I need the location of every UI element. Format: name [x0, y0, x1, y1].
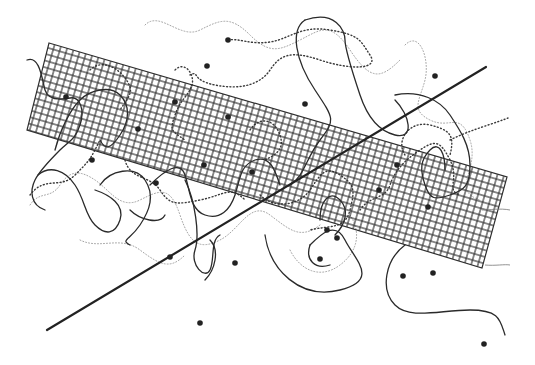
dot — [317, 256, 323, 262]
fontana-mix-artwork — [0, 0, 535, 365]
dot — [302, 101, 308, 107]
dot — [204, 63, 210, 69]
dot — [201, 162, 207, 168]
dot — [432, 73, 438, 79]
dot — [89, 157, 95, 163]
dot — [167, 254, 173, 260]
dot — [225, 37, 231, 43]
dot — [481, 341, 487, 347]
dot — [394, 162, 400, 168]
dot — [63, 94, 69, 100]
dot — [232, 260, 238, 266]
dot — [153, 180, 159, 186]
dot — [430, 270, 436, 276]
dot — [376, 187, 382, 193]
dot — [197, 320, 203, 326]
dot — [425, 204, 431, 210]
dot — [334, 235, 340, 241]
dot — [135, 126, 141, 132]
dot — [249, 169, 255, 175]
dot — [400, 273, 406, 279]
dot — [172, 99, 178, 105]
dot — [324, 227, 330, 233]
dot — [225, 114, 231, 120]
